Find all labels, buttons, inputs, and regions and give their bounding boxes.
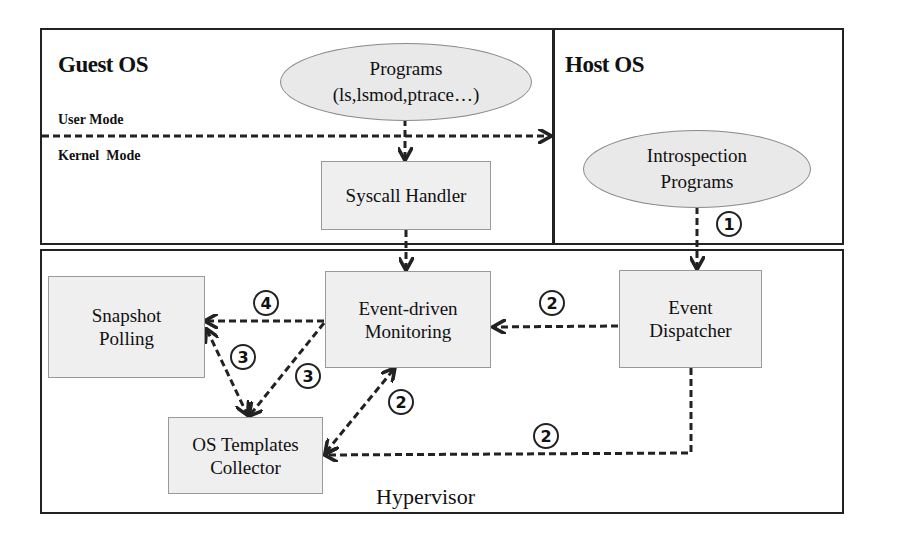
snapshot-polling-label-line2: Polling — [99, 327, 154, 350]
step-4-badge: 4 — [253, 290, 279, 316]
event-dispatcher-node: Event Dispatcher — [619, 270, 762, 368]
monitoring-label-line1: Event-driven — [358, 297, 457, 320]
introspection-label-line1: Introspection — [647, 143, 747, 169]
step-2-dispatcher-monitoring-badge: 2 — [539, 290, 565, 316]
event-driven-monitoring-node: Event-driven Monitoring — [325, 271, 491, 368]
collector-label-line1: OS Templates — [192, 433, 299, 456]
dispatcher-label-line2: Dispatcher — [649, 319, 731, 342]
step-1-badge: 1 — [716, 211, 742, 237]
os-templates-collector-node: OS Templates Collector — [168, 417, 323, 494]
syscall-handler-label: Syscall Handler — [346, 184, 467, 207]
dispatcher-to-monitoring-arrow — [494, 326, 618, 327]
programs-node: Programs (ls,lsmod,ptrace…) — [280, 43, 532, 121]
step-3-monitoring-collector-badge: 3 — [295, 363, 321, 389]
syscall-handler-node: Syscall Handler — [321, 161, 491, 230]
collector-label-line2: Collector — [210, 456, 281, 479]
dispatcher-to-collector-arrow — [326, 368, 691, 455]
dispatcher-label-line1: Event — [668, 296, 712, 319]
snapshot-polling-node: Snapshot Polling — [48, 276, 205, 378]
step-2-dispatcher-collector-badge: 2 — [533, 423, 559, 449]
monitoring-label-line2: Monitoring — [365, 320, 452, 343]
programs-label: Programs — [370, 56, 443, 82]
snapshot-polling-label-line1: Snapshot — [92, 304, 162, 327]
introspection-label-line2: Programs — [661, 169, 734, 195]
step-3-snapshot-collector-badge: 3 — [230, 344, 256, 370]
collector-monitoring-arrow — [326, 369, 394, 452]
programs-examples: (ls,lsmod,ptrace…) — [333, 82, 480, 108]
snapshot-collector-arrow — [207, 330, 247, 414]
step-2-collector-monitoring-badge: 2 — [388, 389, 414, 415]
introspection-programs-node: Introspection Programs — [583, 130, 811, 208]
